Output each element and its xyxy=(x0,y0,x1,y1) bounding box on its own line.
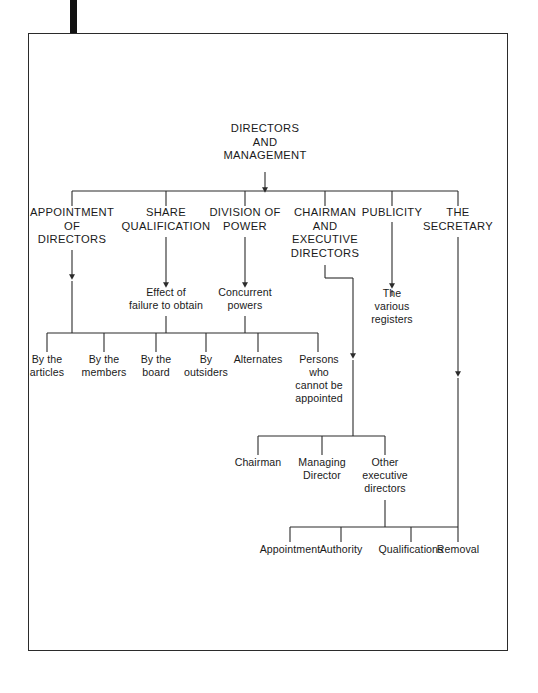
node-concurrent-powers: Concurrent powers xyxy=(203,286,287,312)
diagram-page: DIRECTORS AND MANAGEMENT APPOINTMENT OF … xyxy=(0,0,538,693)
node-the-secretary: THE SECRETARY xyxy=(416,206,500,233)
node-effect-of-failure-to-obtain: Effect of failure to obtain xyxy=(116,286,216,312)
node-by-the-articles: By the articles xyxy=(21,353,73,379)
registration-mark xyxy=(70,0,77,33)
node-removal: Removal xyxy=(430,543,486,556)
node-authority: Authority xyxy=(311,543,371,556)
node-alternates: Alternates xyxy=(227,353,289,366)
node-managing-director: Managing Director xyxy=(290,456,354,482)
node-chairman: Chairman xyxy=(226,456,290,469)
node-root: DIRECTORS AND MANAGEMENT xyxy=(205,122,325,163)
node-other-executive-directors: Other executive directors xyxy=(354,456,416,495)
node-persons-who-cannot-be-appointed: Persons who cannot be appointed xyxy=(288,353,350,405)
node-division-of-power: DIVISION OF POWER xyxy=(199,206,291,233)
node-appointment-of-directors: APPOINTMENT OF DIRECTORS xyxy=(22,206,122,247)
node-the-various-registers: The various registers xyxy=(357,287,427,326)
